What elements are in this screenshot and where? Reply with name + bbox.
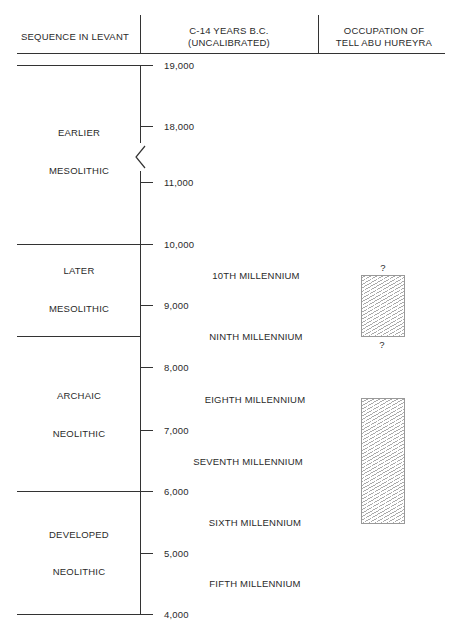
period-neolithic-2: NEOLITHIC — [53, 566, 105, 577]
millennium-8th: EIGHTH MILLENNIUM — [205, 394, 306, 405]
millennium-9th: NINTH MILLENNIUM — [209, 331, 302, 342]
tick-label: 11,000 — [164, 177, 194, 188]
period-developed: DEVELOPED — [49, 529, 109, 540]
tick-label: 19,000 — [164, 60, 194, 71]
tick-label: 10,000 — [164, 239, 194, 250]
header-divider-1 — [140, 15, 141, 53]
tick-label: 7,000 — [164, 425, 189, 436]
boundary-8500 — [17, 336, 141, 337]
tick-18000 — [140, 126, 153, 127]
uncertain-bottom-mark: ? — [379, 339, 384, 350]
header-occupation-line1: OCCUPATION OF — [344, 25, 424, 36]
boundary-19000 — [17, 65, 153, 66]
occupation-bar-2 — [361, 398, 405, 524]
header-sequence: SEQUENCE IN LEVANT — [21, 31, 129, 42]
header-occupation-line2: TELL ABU HUREYRA — [336, 37, 432, 48]
period-mesolithic-2: MESOLITHIC — [49, 303, 109, 314]
boundary-6000 — [17, 491, 153, 492]
axis-break-icon — [132, 144, 148, 170]
millennium-7th: SEVENTH MILLENNIUM — [193, 456, 303, 467]
period-archaic: ARCHAIC — [57, 390, 101, 401]
tick-label: 4,000 — [164, 609, 189, 620]
tick-label: 9,000 — [164, 300, 189, 311]
period-earlier: EARLIER — [58, 127, 100, 138]
period-neolithic-1: NEOLITHIC — [53, 428, 105, 439]
uncertain-top-mark: ? — [380, 262, 385, 273]
tick-label: 18,000 — [164, 121, 194, 132]
millennium-6th: SIXTH MILLENNIUM — [209, 517, 301, 528]
axis-line-lower — [140, 171, 141, 614]
tick-9000 — [140, 305, 153, 306]
tick-8000 — [140, 367, 153, 368]
header-rule — [17, 53, 445, 54]
tick-5000 — [140, 553, 153, 554]
tick-11000 — [140, 182, 153, 183]
tick-label: 5,000 — [164, 548, 189, 559]
header-divider-2 — [318, 15, 319, 53]
boundary-4000 — [17, 614, 153, 615]
millennium-5th: FIFTH MILLENNIUM — [209, 578, 300, 589]
header-c14-line2: (UNCALIBRATED) — [188, 37, 270, 48]
tick-7000 — [140, 430, 153, 431]
millennium-10th: 10TH MILLENNIUM — [212, 270, 299, 281]
header-c14-line1: C-14 YEARS B.C. — [189, 25, 268, 36]
occupation-bar-1 — [361, 275, 405, 337]
period-mesolithic-1: MESOLITHIC — [49, 165, 109, 176]
boundary-10000 — [17, 244, 153, 245]
tick-label: 8,000 — [164, 362, 189, 373]
axis-line-upper — [140, 65, 141, 143]
tick-label: 6,000 — [164, 486, 189, 497]
period-later: LATER — [64, 265, 95, 276]
